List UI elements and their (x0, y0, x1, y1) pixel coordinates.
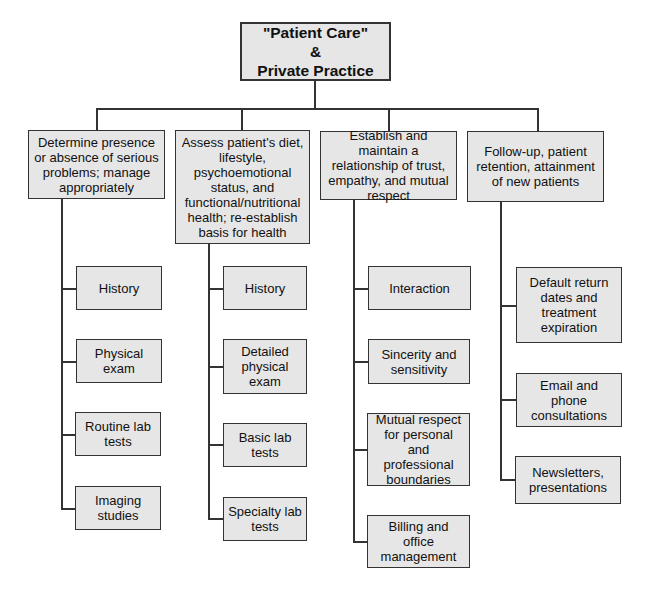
col3-child-2: Sincerity and sensitivity (368, 339, 470, 384)
col1-trunk (61, 199, 63, 509)
col3-child-4: Billing and office management (367, 515, 470, 568)
col1-drop (96, 108, 98, 130)
column-3-title: Establish and maintain a relationship of… (325, 128, 452, 203)
col1-branch-1 (61, 288, 77, 290)
column-4-title: Follow-up, patient retention, attainment… (472, 144, 599, 189)
col3-branch-2 (353, 361, 369, 363)
col4-branch-1 (500, 305, 517, 307)
col2-child-3: Basic lab tests (223, 423, 307, 467)
column-1-title: Determine presence or absence of serious… (33, 135, 160, 195)
root-line-2: & (257, 42, 373, 61)
col4-branch-2 (500, 399, 517, 401)
col1-branch-2 (61, 361, 77, 363)
column-4-node: Follow-up, patient retention, attainment… (467, 131, 604, 202)
col1-child-2: Physical exam (76, 339, 162, 383)
col2-child-2: Detailed physical exam (223, 339, 307, 394)
col1-child-3: Routine lab tests (75, 412, 161, 456)
col4-child-1: Default return dates and treatment expir… (516, 267, 622, 343)
col1-child-4: Imaging studies (75, 486, 161, 530)
col2-child-4: Specialty lab tests (223, 497, 307, 541)
col1-child-1: History (76, 266, 162, 310)
column-3-node: Establish and maintain a relationship of… (320, 131, 457, 200)
col2-drop (241, 108, 243, 130)
col4-child-2: Email and phone consultations (516, 373, 622, 427)
col2-branch-1 (208, 288, 224, 290)
col3-trunk (353, 199, 355, 542)
col2-branch-3 (208, 444, 224, 446)
col2-branch-4 (208, 518, 224, 520)
column-2-node: Assess patient's diet, lifestyle, psycho… (175, 130, 310, 244)
root-connector (314, 80, 316, 108)
col4-child-3: Newsletters, presentations (515, 456, 621, 504)
col4-drop (537, 108, 539, 131)
col4-trunk (500, 201, 502, 480)
column-1-node: Determine presence or absence of serious… (28, 130, 165, 199)
col3-branch-1 (353, 288, 369, 290)
root-node: "Patient Care" & Private Practice (240, 22, 391, 81)
root-line-1: "Patient Care" (257, 23, 373, 42)
col2-child-1: History (223, 266, 307, 310)
column-2-title: Assess patient's diet, lifestyle, psycho… (180, 135, 305, 240)
col2-trunk (208, 243, 210, 519)
col3-child-3: Mutual respect for personal and professi… (367, 413, 470, 486)
top-bus (96, 108, 538, 110)
root-line-3: Private Practice (257, 61, 373, 80)
col2-branch-2 (208, 366, 224, 368)
col3-child-1: Interaction (368, 266, 471, 310)
